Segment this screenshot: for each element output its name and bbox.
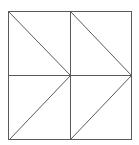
diagonal-line-1 xyxy=(9,12,71,76)
diagonal-line-2 xyxy=(10,76,71,140)
chevron-square-diagram xyxy=(0,0,139,145)
diagonal-line-3 xyxy=(71,12,132,76)
diagonal-line-4 xyxy=(71,76,132,140)
